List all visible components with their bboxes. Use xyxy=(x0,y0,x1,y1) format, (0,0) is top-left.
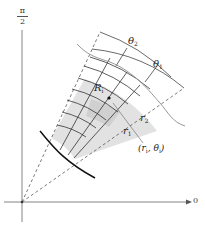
r1-sub: 1 xyxy=(128,130,132,137)
point-open: (r xyxy=(138,143,146,153)
label-region: Ri xyxy=(94,83,103,94)
pi-denominator: 2 xyxy=(20,17,25,26)
region-symbol: R xyxy=(94,82,102,93)
point-close: ) xyxy=(161,143,165,153)
polar-region-diagram: π 2 0 θ2 θ1 Ri r2 r1 (ri, θi) xyxy=(0,0,205,227)
pi-numerator: π xyxy=(20,6,25,15)
theta2-tick xyxy=(116,48,127,66)
region-sub: i xyxy=(102,87,104,94)
diagram-canvas xyxy=(0,0,205,227)
sample-point xyxy=(107,96,110,99)
label-point: (ri, θi) xyxy=(138,144,164,154)
theta1-arc xyxy=(92,49,184,88)
label-zero: 0 xyxy=(193,197,198,205)
label-theta1: θ1 xyxy=(153,59,163,70)
label-r1: r1 xyxy=(123,126,132,137)
arrow-icon xyxy=(186,200,192,205)
label-pi-over-2: π 2 xyxy=(17,7,28,26)
point-mid: , θ xyxy=(148,143,159,153)
theta1-sub: 1 xyxy=(159,63,163,70)
theta2-sub: 2 xyxy=(134,40,138,47)
r2-sub: 2 xyxy=(145,117,149,124)
label-r2: r2 xyxy=(140,113,149,124)
label-theta2: θ2 xyxy=(128,36,138,47)
